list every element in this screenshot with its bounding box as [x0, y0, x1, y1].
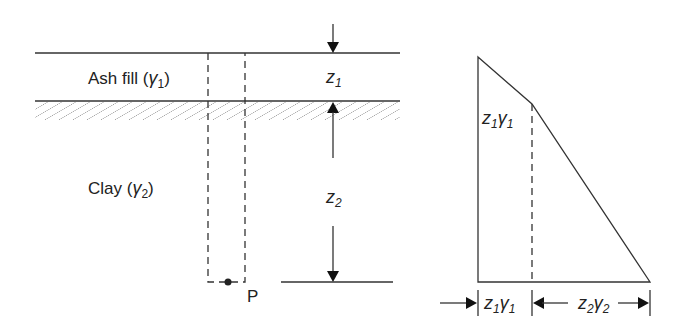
layer-interface-hatching: [35, 102, 400, 120]
point-p-marker: [225, 279, 232, 286]
point-p-label: P: [247, 287, 258, 306]
dim2-label: z2γ2: [577, 293, 610, 316]
ash-fill-label: Ash fill (γ1): [88, 68, 170, 91]
stress-distribution-outline: [478, 57, 650, 282]
soil-column-outline: [208, 53, 245, 282]
z2-label: z2: [325, 187, 342, 210]
break-stress-label: z1γ1: [481, 108, 513, 131]
dim1-arrow-head-icon: [466, 297, 477, 309]
vertical-stress-diagram: z1γ1 z1γ1 z2γ2: [440, 57, 650, 316]
clay-label: Clay (γ2): [88, 178, 154, 201]
z1-arrow-head-icon: [327, 42, 339, 53]
z1-label: z1: [325, 67, 342, 90]
z2-bottom-arrow-head-icon: [327, 271, 339, 282]
dim1-label: z1γ1: [483, 293, 515, 316]
dim2-right-arrow-head-icon: [638, 297, 649, 309]
soil-profile: P Ash fill (γ1) Clay (γ2) z1 z2: [35, 24, 400, 306]
stress-profile-diagram: P Ash fill (γ1) Clay (γ2) z1 z2 z1γ1 z1γ…: [0, 0, 690, 328]
